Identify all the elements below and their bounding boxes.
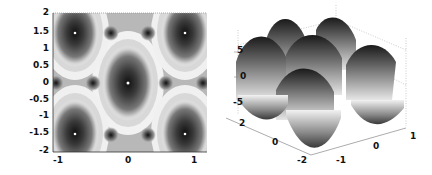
surface-plot	[216, 0, 432, 175]
y-tick-label: 1.5	[33, 26, 49, 36]
x-tick-label: 0	[125, 155, 131, 165]
x-tick-label: -1	[53, 155, 63, 165]
x-tick-label: 0	[373, 141, 379, 151]
y-tick-label: -0.5	[29, 94, 49, 104]
y-tick-label: -2	[297, 155, 307, 165]
y-tick-label: 0	[43, 77, 49, 87]
y-tick-label: 0.5	[33, 60, 49, 70]
z-tick-label: 5	[237, 45, 243, 55]
y-tick-label: 2	[239, 118, 245, 128]
density-map-panel: 2 1.5 1 0.5 0 -0.5 -1 -1.5 -2 -1 0 1	[0, 0, 216, 175]
z-tick-label: 0	[240, 71, 246, 81]
y-tick-label: 2	[43, 7, 49, 17]
y-tick-label: 0	[272, 137, 278, 147]
y-tick-label: 1	[43, 43, 49, 53]
x-tick-label: -1	[336, 155, 346, 165]
x-tick-label: 1	[410, 131, 416, 141]
surface-plot-panel: 5 0 -5 2 0 -2 -1 0 1	[216, 0, 432, 175]
x-tick-label: 1	[191, 155, 197, 165]
y-tick-label: -2	[39, 145, 49, 155]
z-tick-label: -5	[233, 97, 243, 107]
y-tick-label: -1.5	[29, 127, 49, 137]
y-tick-label: -1	[39, 110, 49, 120]
